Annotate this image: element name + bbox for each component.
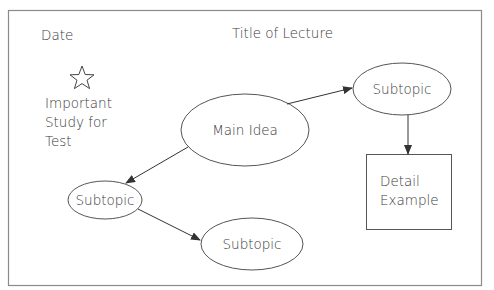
note-line: Study for [45,113,112,132]
note-line: Test [45,132,112,151]
star-icon [70,66,94,89]
lecture-title-label: Title of Lecture [232,24,333,43]
detail-example-label: Detail Example [380,172,439,210]
main-idea-label: Main Idea [195,121,295,140]
arrow-left-to-subtopic-bottom [138,209,200,240]
subtopic-top-right-label: Subtopic [362,80,442,99]
note-line: Important [45,94,112,113]
detail-line: Detail [380,172,439,191]
arrow-main-to-subtopic-top-right [287,88,352,104]
subtopic-left-label: Subtopic [70,191,140,210]
date-label: Date [41,26,73,45]
subtopic-bottom-label: Subtopic [212,235,292,254]
example-line: Example [380,191,439,210]
important-note: Important Study for Test [45,94,112,151]
arrow-main-to-subtopic-left [126,147,188,183]
